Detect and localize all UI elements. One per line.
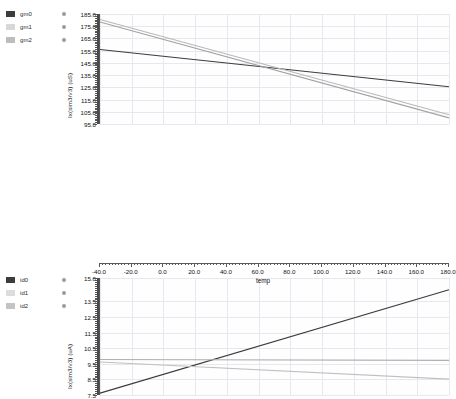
y-minor-tick-mark [95, 395, 97, 396]
y-minor-tick-mark [95, 387, 97, 388]
y-minor-tick-mark [95, 122, 97, 123]
x-tick-label: 60.0 [252, 268, 264, 275]
series-line-id0 [100, 290, 449, 393]
legend-marker-dot-icon[interactable] [62, 38, 66, 42]
x-minor-tick-mark [156, 263, 157, 265]
legend-id-item-id1[interactable]: id1 [6, 288, 68, 298]
legend-label: gm1 [20, 24, 62, 30]
y-minor-tick-mark [95, 356, 97, 357]
gridline-horizontal [100, 395, 449, 396]
x-minor-tick-mark [109, 263, 110, 265]
legend-marker-dot-icon[interactable] [62, 304, 66, 308]
y-minor-tick-mark [95, 23, 97, 24]
x-minor-tick-mark [375, 263, 376, 265]
legend-gm-item-gm2[interactable]: gm2 [6, 35, 68, 45]
y-minor-tick-mark [95, 34, 97, 35]
x-minor-tick-mark [372, 263, 373, 265]
x-minor-tick-mark [327, 263, 328, 265]
plot-area-drain-current[interactable] [99, 278, 449, 395]
y-minor-tick-mark [95, 331, 97, 332]
x-minor-tick-mark [178, 263, 179, 265]
x-minor-tick-mark [220, 263, 221, 265]
y-minor-tick-mark [95, 78, 97, 79]
x-minor-tick-mark [318, 263, 319, 265]
legend-gm-item-gm1[interactable]: gm1 [6, 22, 68, 32]
y-minor-tick-mark [95, 106, 97, 107]
y-minor-tick-mark [95, 311, 97, 312]
x-minor-tick-mark [235, 263, 236, 265]
x-minor-tick-mark [153, 263, 154, 265]
x-axis-label: temp [0, 277, 454, 284]
x-minor-tick-mark [419, 263, 420, 265]
chart-panel-drain-current: id0id1id2 Ix(sim3/v3) (uA) 15.013.512.51… [0, 133, 454, 288]
x-minor-tick-mark [166, 263, 167, 265]
x-minor-tick-mark [191, 263, 192, 265]
x-minor-tick-mark [150, 263, 151, 265]
y-minor-tick-mark [95, 62, 97, 63]
x-minor-tick-mark [356, 263, 357, 265]
x-tick-label: 80.0 [283, 268, 295, 275]
x-minor-tick-mark [274, 263, 275, 265]
y-minor-tick-mark [95, 346, 97, 347]
x-minor-tick-mark [302, 263, 303, 265]
legend-marker-dot-icon[interactable] [62, 25, 66, 29]
x-minor-tick-mark [435, 263, 436, 265]
y-minor-tick-mark [95, 67, 97, 68]
series-line-gm1 [100, 20, 449, 115]
x-minor-tick-mark [353, 263, 354, 265]
y-minor-tick-mark [95, 362, 97, 363]
x-minor-tick-mark [324, 263, 325, 265]
y-minor-tick-mark [95, 100, 97, 101]
y-minor-tick-mark [95, 381, 97, 382]
x-minor-tick-mark [264, 263, 265, 265]
legend-marker-dot-icon[interactable] [62, 12, 66, 16]
series-layer-top [100, 14, 449, 124]
x-minor-tick-mark [137, 263, 138, 265]
x-minor-tick-mark [124, 263, 125, 265]
x-minor-tick-mark [426, 263, 427, 265]
y-minor-tick-mark [95, 294, 97, 295]
y-minor-tick-mark [95, 286, 97, 287]
legend-label: id2 [20, 303, 62, 309]
legend-swatch-icon [6, 290, 15, 296]
x-minor-tick-mark [394, 263, 395, 265]
x-tick-label: 180.0 [440, 268, 455, 275]
y-minor-tick-mark [95, 342, 97, 343]
x-minor-tick-mark [207, 263, 208, 265]
x-minor-tick-mark [413, 263, 414, 265]
x-minor-tick-mark [308, 263, 309, 265]
y-minor-tick-mark [95, 313, 97, 314]
x-minor-tick-mark [388, 263, 389, 265]
x-minor-tick-mark [432, 263, 433, 265]
x-minor-tick-mark [305, 263, 306, 265]
y-minor-tick-mark [95, 374, 97, 375]
x-minor-tick-mark [438, 263, 439, 265]
y-minor-tick-mark [95, 321, 97, 322]
x-minor-tick-mark [283, 263, 284, 265]
legend-id-item-id2[interactable]: id2 [6, 301, 68, 311]
x-minor-tick-mark [197, 263, 198, 265]
x-axis-label-text: temp [256, 277, 270, 284]
y-minor-tick-mark [95, 117, 97, 118]
x-minor-tick-mark [239, 263, 240, 265]
x-minor-tick-mark [343, 263, 344, 265]
x-minor-tick-mark [172, 263, 173, 265]
y-minor-tick-mark [95, 73, 97, 74]
y-minor-tick-mark [95, 84, 97, 85]
x-minor-tick-mark [175, 263, 176, 265]
legend-gm-item-gm0[interactable]: gm0 [6, 9, 68, 19]
x-minor-tick-mark [115, 263, 116, 265]
y-minor-tick-mark [95, 389, 97, 390]
plot-area-transconductance[interactable] [99, 14, 449, 124]
x-minor-tick-mark [261, 263, 262, 265]
y-minor-tick-mark [95, 368, 97, 369]
x-minor-tick-mark [362, 263, 363, 265]
x-tick-label: 20.0 [188, 268, 200, 275]
x-minor-tick-mark [299, 263, 300, 265]
x-tick-label: -20.0 [124, 268, 138, 275]
x-minor-tick-mark [226, 263, 227, 265]
y-minor-tick-mark [95, 51, 97, 52]
legend-marker-dot-icon[interactable] [62, 291, 66, 295]
y-minor-tick-mark [95, 29, 97, 30]
legend-swatch-icon [6, 303, 15, 309]
